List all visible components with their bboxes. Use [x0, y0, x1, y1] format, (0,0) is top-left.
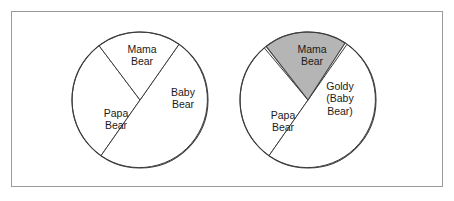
right-pie-chart: MamaBear PapaBear Goldy(BabyBear)	[240, 32, 376, 168]
right-label-papa-bear: PapaBear	[271, 109, 296, 134]
figure-container: MamaBear PapaBear BabyBear MamaBear Papa…	[0, 0, 454, 201]
left-pie-chart: MamaBear PapaBear BabyBear	[72, 32, 208, 168]
right-label-goldy-baby-bear: Goldy(BabyBear)	[326, 79, 354, 116]
pie-charts-svg: MamaBear PapaBear BabyBear MamaBear Papa…	[0, 0, 454, 201]
left-label-mama-bear: MamaBear	[127, 43, 156, 68]
left-label-baby-bear: BabyBear	[171, 86, 196, 111]
left-label-papa-bear: PapaBear	[104, 107, 129, 132]
right-label-mama-bear: MamaBear	[297, 43, 326, 68]
